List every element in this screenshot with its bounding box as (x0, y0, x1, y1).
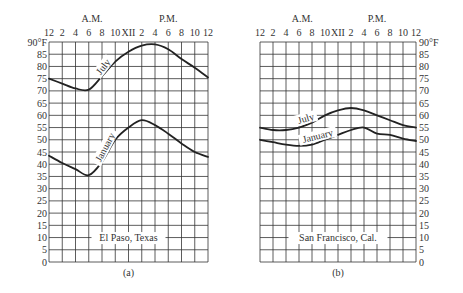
grid (49, 42, 208, 262)
y-tick-label: 20 (419, 208, 429, 219)
y-tick-label: 60 (37, 110, 47, 121)
x-tick-label: 2 (271, 27, 276, 38)
x-tick-label: XII (122, 27, 136, 38)
y-tick-label: 70 (37, 85, 47, 96)
x-tick-label: 10 (320, 27, 330, 38)
chart-panel-el-paso: 12246810XII24681012A.M.P.M.90°F858075706… (27, 13, 213, 279)
y-tick-label: 15 (419, 220, 429, 231)
x-tick-label: 8 (388, 27, 393, 38)
y-tick-label: 65 (419, 98, 429, 109)
x-tick-label: 6 (166, 27, 171, 38)
x-tick-label: 10 (190, 27, 200, 38)
x-tick-label: 6 (375, 27, 380, 38)
y-tick-label: 45 (419, 147, 429, 158)
y-tick-label: 45 (37, 147, 47, 158)
x-tick-label: 4 (73, 27, 78, 38)
x-tick-label: 10 (398, 27, 408, 38)
x-tick-label: 8 (310, 27, 315, 38)
y-tick-label: 30 (37, 183, 47, 194)
y-tick-label: 0 (419, 257, 424, 268)
y-tick-label: 5 (419, 244, 424, 255)
x-tick-label: 4 (153, 27, 158, 38)
x-tick-label: 6 (297, 27, 302, 38)
pm-label: P.M. (159, 13, 177, 24)
panel-caption: (b) (332, 267, 344, 279)
y-tick-label: 15 (37, 220, 47, 231)
january-label: January (91, 128, 119, 167)
y-tick-label: 35 (419, 171, 429, 182)
y-tick-label: 50 (419, 134, 429, 145)
x-tick-label: 2 (139, 27, 144, 38)
x-tick-label: XII (331, 27, 345, 38)
y-tick-label: 40 (37, 159, 47, 170)
x-tick-label: 8 (100, 27, 105, 38)
x-tick-label: 10 (110, 27, 120, 38)
svg-text:January: January (93, 131, 117, 164)
y-tick-label: 35 (37, 171, 47, 182)
y-tick-label: 10 (37, 232, 47, 243)
y-tick-label: 75 (37, 73, 47, 84)
chart-panel-san-francisco: 12246810XII24681012A.M.P.M.90°F858075706… (255, 13, 439, 279)
y-tick-label: 65 (37, 98, 47, 109)
y-tick-label: 80 (37, 61, 47, 72)
x-tick-label: 4 (362, 27, 367, 38)
y-tick-label: 5 (42, 244, 47, 255)
y-tick-label: 80 (419, 61, 429, 72)
y-tick-label: 25 (419, 195, 429, 206)
y-tick-label: 90°F (27, 37, 47, 48)
y-tick-label: 10 (419, 232, 429, 243)
x-tick-label: 2 (349, 27, 354, 38)
location-label: El Paso, Texas (99, 232, 157, 243)
x-tick-label: 12 (255, 27, 265, 38)
y-tick-label: 85 (37, 49, 47, 60)
x-tick-label: 8 (179, 27, 184, 38)
july-label: July (293, 110, 318, 127)
y-tick-label: 50 (37, 134, 47, 145)
x-tick-label: 2 (60, 27, 65, 38)
location-label: San Francisco, Cal. (299, 232, 377, 243)
x-tick-label: 12 (203, 27, 213, 38)
y-tick-label: 60 (419, 110, 429, 121)
y-tick-label: 75 (419, 73, 429, 84)
y-tick-label: 55 (419, 122, 429, 133)
temperature-charts: 12246810XII24681012A.M.P.M.90°F858075706… (0, 0, 463, 293)
am-label: A.M. (82, 13, 103, 24)
y-tick-label: 20 (37, 208, 47, 219)
panel-caption: (a) (123, 267, 134, 279)
y-tick-label: 40 (419, 159, 429, 170)
y-tick-label: 85 (419, 49, 429, 60)
x-tick-label: 6 (86, 27, 91, 38)
grid (260, 42, 416, 262)
y-tick-label: 0 (42, 257, 47, 268)
y-tick-label: 90°F (419, 37, 439, 48)
y-tick-label: 25 (37, 195, 47, 206)
y-tick-label: 30 (419, 183, 429, 194)
pm-label: P.M. (368, 13, 386, 24)
x-tick-label: 4 (284, 27, 289, 38)
y-tick-label: 70 (419, 85, 429, 96)
am-label: A.M. (292, 13, 313, 24)
y-tick-label: 55 (37, 122, 47, 133)
